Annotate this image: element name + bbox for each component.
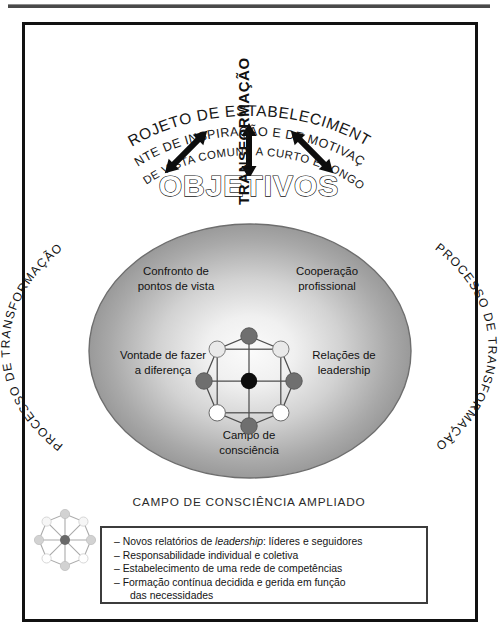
bullet-text-post: : líderes e seguidores xyxy=(263,536,362,547)
arc-heading-2: FONTE DE INSPIRAÇÃO E DE MOTIVAÇÃO xyxy=(0,0,367,169)
list-item: – Formação contínua decidida e gerida em… xyxy=(114,576,426,603)
label-cooperacao-line1: Cooperação xyxy=(296,265,358,277)
bullet-text-pre: Responsabilidade individual e coletiva xyxy=(123,550,299,561)
right-arc-label: PROCESSO DE TRANSFORMAÇÃO xyxy=(433,240,498,453)
bullet-dash: – xyxy=(114,536,120,547)
bullet-list-box: – Novos relatórios de leadership: lídere… xyxy=(100,526,428,604)
list-item: – Estabelecimento de uma rede de competê… xyxy=(114,562,426,576)
bullet-dash: – xyxy=(114,577,120,588)
transformacao-vertical-label: TRANSFORMAÇÃO xyxy=(235,57,252,205)
label-relacoes-line1: Relações de xyxy=(312,349,375,361)
list-item: – Responsabilidade individual e coletiva xyxy=(114,549,426,563)
top-arc-headings: PROJETO DE ESTABELECIMENTO FONTE DE INSP… xyxy=(0,0,374,192)
bullet-dash: – xyxy=(114,550,120,561)
bullet-text-pre: Novos relatórios de xyxy=(123,536,215,547)
bullet-text-continuation: das necessidades xyxy=(122,589,426,603)
bullet-text-pre: Formação contínua decidida e gerida em f… xyxy=(123,577,346,588)
network-node-center xyxy=(241,373,257,389)
network-node-bottom-left xyxy=(209,405,225,421)
octagon-network-icon xyxy=(196,328,302,434)
bullet-dash: – xyxy=(114,563,120,574)
figure-root: PROJETO DE ESTABELECIMENTO FONTE DE INSP… xyxy=(0,0,498,644)
bullet-text-italic: leadership xyxy=(215,536,263,547)
label-cooperacao-line2: profissional xyxy=(298,280,356,292)
arc-heading-1: PROJETO DE ESTABELECIMENTO xyxy=(0,0,374,149)
network-node-bottom xyxy=(241,418,257,434)
network-node-top xyxy=(241,328,257,344)
label-campo-line2: consciência xyxy=(219,444,279,456)
network-node-top-left xyxy=(209,341,225,357)
caption-campo-ampliado: CAMPO DE CONSCIÊNCIA AMPLIADO xyxy=(133,495,366,509)
octagon-network-icon-small xyxy=(34,509,95,570)
network-node-top-right xyxy=(273,341,289,357)
network-node-left xyxy=(196,373,212,389)
network-node-bottom-right xyxy=(273,405,289,421)
label-vontade-line2: a diferença xyxy=(135,364,192,376)
arc-heading-3: PONTOS DE VISTA COMUNS A CURTO E LONGO P… xyxy=(0,0,367,192)
label-relacoes-leadership: leadership xyxy=(318,364,371,376)
label-vontade-line1: Vontade de fazer xyxy=(120,349,206,361)
bullet-list: – Novos relatórios de leadership: lídere… xyxy=(102,528,426,603)
list-item: – Novos relatórios de leadership: lídere… xyxy=(114,535,426,549)
left-arc-label: PROCESSO DE TRANSFORMAÇÃO xyxy=(0,240,65,453)
bullet-text-pre: Estabelecimento de uma rede de competênc… xyxy=(123,563,343,574)
label-confronto-line2: pontos de vista xyxy=(138,280,215,292)
label-confronto-line1: Confronto de xyxy=(143,265,209,277)
network-node-right xyxy=(286,373,302,389)
